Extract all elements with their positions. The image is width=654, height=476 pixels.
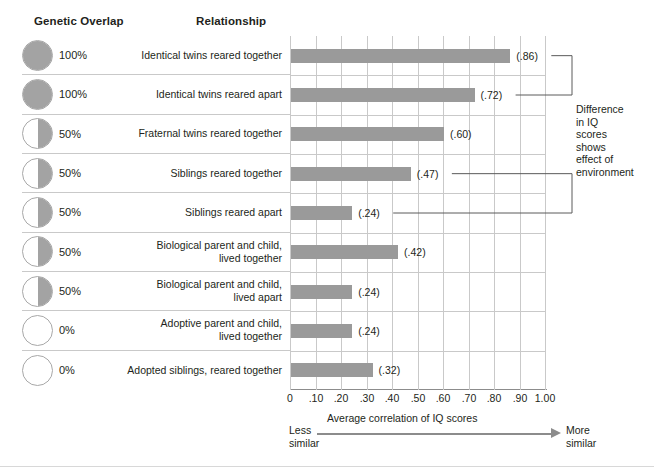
- annotation-line: effect of: [576, 153, 634, 166]
- genetic-overlap-full-circle-icon: [22, 79, 53, 110]
- x-axis-tick-label: 0: [287, 392, 293, 404]
- relationship-label-line: Siblings reared together: [171, 167, 283, 180]
- genetic-overlap-cell: 100%: [22, 75, 126, 113]
- bar-value-label: (.24): [358, 286, 380, 298]
- circle-fill: [38, 277, 53, 306]
- relationship-label: Adoptive parent and child,lived together: [122, 311, 282, 349]
- genetic-overlap-cell: 50%: [22, 193, 126, 231]
- x-axis-tick-label: .60: [436, 392, 451, 404]
- genetic-overlap-percent-label: 0%: [59, 364, 75, 376]
- bar[interactable]: [291, 245, 398, 259]
- circle-fill: [38, 198, 53, 227]
- relationship-label: Identical twins reared apart: [122, 75, 282, 113]
- table-row[interactable]: 0%Adoptive parent and child,lived togeth…: [22, 311, 290, 350]
- row-gridline: [290, 193, 545, 194]
- genetic-overlap-cell: 100%: [22, 36, 126, 74]
- relationship-label-line: Adoptive parent and child,: [161, 317, 282, 330]
- bar[interactable]: [291, 363, 373, 377]
- row-gridline: [290, 351, 545, 352]
- relationship-label-line: Identical twins reared together: [141, 49, 282, 62]
- row-gridline: [290, 75, 545, 76]
- genetic-overlap-percent-label: 50%: [59, 167, 81, 179]
- x-axis-tick-label: .70: [462, 392, 477, 404]
- genetic-overlap-percent-label: 0%: [59, 324, 75, 336]
- axis-end-label-line: similar: [566, 437, 596, 450]
- table-row[interactable]: 50%Siblings reared together: [22, 154, 290, 193]
- annotation-line: environment: [576, 166, 634, 179]
- x-axis-caption: Average correlation of IQ scores: [327, 412, 477, 424]
- genetic-overlap-empty-circle-icon: [22, 355, 53, 386]
- genetic-overlap-percent-label: 50%: [59, 128, 81, 140]
- bar-value-label: (.24): [358, 207, 380, 219]
- genetic-overlap-half-circle-icon: [22, 197, 53, 228]
- x-axis-tick-label: .50: [411, 392, 426, 404]
- x-axis-tick-label: .40: [385, 392, 400, 404]
- gridline: [520, 36, 521, 390]
- bar[interactable]: [291, 285, 352, 299]
- annotation-difference-in-iq: Differencein IQscoresshowseffect ofenvir…: [576, 103, 634, 178]
- genetic-overlap-cell: 50%: [22, 272, 126, 310]
- bar[interactable]: [291, 49, 510, 63]
- relationship-label: Adopted siblings, reared together: [122, 351, 282, 390]
- x-axis-tick-label: 1.00: [535, 392, 555, 404]
- relationship-label: Siblings reared together: [122, 154, 282, 192]
- axis-end-label-more-similar: Moresimilar: [566, 424, 596, 449]
- genetic-overlap-percent-label: 100%: [59, 49, 87, 61]
- x-axis-tick-label: .10: [309, 392, 324, 404]
- similarity-arrow-head: [551, 428, 561, 438]
- row-gridline: [290, 233, 545, 234]
- genetic-overlap-cell: 50%: [22, 154, 126, 192]
- similarity-arrow-line: [317, 433, 553, 435]
- table-row[interactable]: 100%Identical twins reared together: [22, 36, 290, 75]
- gridline: [545, 36, 546, 390]
- bar-value-label: (.42): [404, 246, 426, 258]
- column-header-genetic-overlap: Genetic Overlap: [34, 15, 124, 27]
- x-axis-tick-label: .30: [360, 392, 375, 404]
- row-gridline: [290, 154, 545, 155]
- table-row[interactable]: 50%Siblings reared apart: [22, 193, 290, 232]
- relationship-label: Fraternal twins reared together: [122, 115, 282, 153]
- bar-value-label: (.24): [358, 325, 380, 337]
- annotation-line: Difference: [576, 103, 634, 116]
- column-header-relationship: Relationship: [196, 15, 266, 27]
- table-row[interactable]: 50%Fraternal twins reared together: [22, 115, 290, 154]
- table-row[interactable]: 0%Adopted siblings, reared together: [22, 351, 290, 390]
- genetic-overlap-percent-label: 100%: [59, 88, 87, 100]
- relationship-label-line: Biological parent and child,: [157, 278, 283, 291]
- x-axis-tick-label: .20: [334, 392, 349, 404]
- relationship-label-line: lived together: [219, 252, 282, 265]
- relationship-label: Identical twins reared together: [122, 36, 282, 74]
- row-gridline: [290, 272, 545, 273]
- relationship-label-line: Fraternal twins reared together: [138, 127, 282, 140]
- bar[interactable]: [291, 167, 411, 181]
- bar[interactable]: [291, 206, 352, 220]
- circle-fill: [23, 41, 52, 70]
- bar-value-label: (.32): [379, 364, 401, 376]
- relationship-label-line: lived together: [219, 330, 282, 343]
- genetic-overlap-half-circle-icon: [22, 158, 53, 189]
- genetic-overlap-cell: 0%: [22, 351, 126, 390]
- relationship-label: Biological parent and child,lived togeth…: [122, 233, 282, 271]
- bar[interactable]: [291, 324, 352, 338]
- x-axis-tick-labels: 0.10.20.30.40.50.60.70.80.901.00: [290, 392, 570, 408]
- relationship-label: Biological parent and child,lived apart: [122, 272, 282, 310]
- bar-value-label: (.47): [417, 168, 439, 180]
- row-gridline: [290, 115, 545, 116]
- circle-fill: [38, 159, 53, 188]
- genetic-overlap-percent-label: 50%: [59, 285, 81, 297]
- table-row[interactable]: 50%Biological parent and child,lived apa…: [22, 272, 290, 311]
- relationship-label-line: lived apart: [234, 291, 282, 304]
- axis-end-label-less-similar: Lesssimilar: [289, 424, 319, 449]
- table-row[interactable]: 50%Biological parent and child,lived tog…: [22, 233, 290, 272]
- axis-end-label-line: Less: [289, 424, 319, 437]
- genetic-overlap-cell: 50%: [22, 233, 126, 271]
- annotation-line: scores: [576, 128, 634, 141]
- bar[interactable]: [291, 88, 475, 102]
- bar-chart-plot-area: (.86)(.72)(.60)(.47)(.24)(.42)(.24)(.24)…: [290, 36, 545, 390]
- table-row[interactable]: 100%Identical twins reared apart: [22, 75, 290, 114]
- genetic-overlap-cell: 50%: [22, 115, 126, 153]
- relationship-label-line: Identical twins reared apart: [156, 88, 282, 101]
- annotation-line: shows: [576, 141, 634, 154]
- bar[interactable]: [291, 127, 444, 141]
- genetic-overlap-half-circle-icon: [22, 236, 53, 267]
